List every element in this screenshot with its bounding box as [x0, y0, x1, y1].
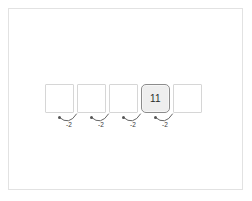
arc-arrow-4 [156, 114, 173, 121]
sequence-cell-3[interactable] [109, 84, 138, 113]
arc-label-4: -2 [162, 122, 168, 129]
arc-label-3: -2 [130, 122, 136, 129]
arc-arrowhead-3-icon [122, 116, 125, 119]
arc-arrowhead-2-icon [90, 116, 93, 119]
sequence-cell-1[interactable] [45, 84, 74, 113]
screenshot-canvas: 11 -2 -2 -2 -2 [0, 0, 252, 201]
arc-arrow-2 [92, 114, 109, 121]
subtraction-sequence-diagram: 11 -2 -2 -2 -2 [0, 0, 252, 201]
arc-arrowhead-1-icon [58, 116, 61, 119]
arc-arrow-1 [60, 114, 77, 121]
sequence-cell-2[interactable] [77, 84, 106, 113]
sequence-cell-5[interactable] [173, 84, 202, 113]
arc-label-1: -2 [66, 122, 72, 129]
arc-arrow-3 [124, 114, 141, 121]
arc-label-2: -2 [98, 122, 104, 129]
sequence-cell-4-selected[interactable]: 11 [141, 84, 170, 113]
arc-arrowhead-4-icon [154, 116, 157, 119]
cell-strip: 11 [45, 84, 202, 113]
sequence-cell-4-value: 11 [150, 94, 161, 104]
